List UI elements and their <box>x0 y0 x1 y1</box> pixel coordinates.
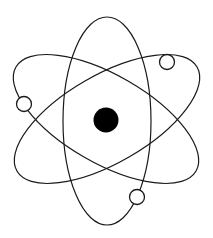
electron-top-right <box>160 55 175 70</box>
electron-bottom-right <box>130 190 145 205</box>
atom-diagram: Atom symbol <box>0 0 213 238</box>
electron-left <box>17 97 32 112</box>
nucleus <box>94 108 119 133</box>
atom-svg-canvas <box>0 0 213 238</box>
